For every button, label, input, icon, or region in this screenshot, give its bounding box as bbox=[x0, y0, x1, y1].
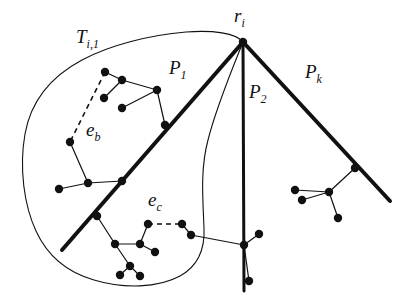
label-path-p1-base: P bbox=[169, 57, 181, 78]
tree-node bbox=[178, 220, 186, 228]
tree-edge bbox=[191, 235, 244, 245]
heavy-paths-group bbox=[62, 42, 390, 291]
label-edge-eb: eb bbox=[86, 120, 100, 139]
tree-node bbox=[240, 241, 248, 249]
tree-edge bbox=[122, 80, 157, 90]
tree-node bbox=[153, 86, 161, 94]
tree-node bbox=[245, 277, 253, 285]
tree-node bbox=[118, 76, 126, 84]
label-path-p1-sub: 1 bbox=[181, 68, 187, 82]
tree-node bbox=[100, 94, 108, 102]
tree-edge bbox=[97, 216, 115, 244]
region-outline-group bbox=[22, 31, 243, 286]
label-path-pk-sub: k bbox=[317, 72, 322, 86]
tree-node bbox=[118, 177, 126, 185]
tree-edge bbox=[122, 90, 157, 108]
tree-edge bbox=[157, 90, 165, 125]
label-edge-ec: ec bbox=[148, 190, 162, 209]
tree-node bbox=[187, 231, 195, 239]
label-path-pk-base: P bbox=[305, 61, 317, 82]
tree-edge bbox=[59, 183, 88, 189]
label-root-ri: ri bbox=[234, 6, 245, 25]
label-edge-eb-sub: b bbox=[94, 130, 100, 144]
dashed-edges-group bbox=[70, 72, 182, 224]
heavy-path-p-2 bbox=[243, 42, 244, 291]
tree-edges-group bbox=[59, 72, 355, 281]
root-node bbox=[239, 38, 247, 46]
subtree-region-outline bbox=[22, 31, 243, 286]
label-path-p2-sub: 2 bbox=[261, 92, 267, 106]
tree-node bbox=[291, 186, 299, 194]
tree-node bbox=[126, 262, 134, 270]
tree-node bbox=[84, 179, 92, 187]
tree-edge bbox=[329, 168, 355, 192]
tree-node bbox=[111, 240, 119, 248]
tree-node bbox=[144, 220, 152, 228]
diagram-svg bbox=[0, 0, 415, 302]
tree-node bbox=[118, 104, 126, 112]
tree-node bbox=[161, 121, 169, 129]
tree-node bbox=[255, 230, 263, 238]
tree-node bbox=[116, 271, 124, 279]
label-path-p2: P2 bbox=[249, 82, 267, 101]
label-subtree-ti1: Ti,1 bbox=[76, 27, 99, 46]
tree-edge bbox=[88, 181, 122, 183]
tree-node bbox=[298, 196, 306, 204]
label-root-ri-sub: i bbox=[241, 16, 244, 30]
tree-node bbox=[66, 138, 74, 146]
tree-node bbox=[136, 240, 144, 248]
heavy-path-p-1 bbox=[62, 42, 243, 250]
label-edge-ec-sub: c bbox=[156, 200, 161, 214]
label-path-p2-base: P bbox=[249, 81, 261, 102]
tree-node bbox=[151, 248, 159, 256]
tree-node bbox=[55, 185, 63, 193]
tree-node bbox=[101, 68, 109, 76]
tree-edge bbox=[302, 192, 329, 200]
label-subtree-ti1-sub: i,1 bbox=[87, 37, 99, 51]
tree-node bbox=[136, 272, 144, 280]
tree-node bbox=[351, 164, 359, 172]
tree-node bbox=[93, 212, 101, 220]
label-path-pk: Pk bbox=[305, 62, 322, 81]
label-subtree-ti1-base: T bbox=[76, 26, 87, 47]
label-path-p1: P1 bbox=[169, 58, 187, 77]
tree-edge bbox=[295, 190, 329, 192]
figure-canvas: ri Ti,1 P1 P2 Pk eb ec bbox=[0, 0, 415, 302]
tree-node bbox=[325, 188, 333, 196]
tree-edge bbox=[70, 142, 88, 183]
tree-node bbox=[334, 214, 342, 222]
